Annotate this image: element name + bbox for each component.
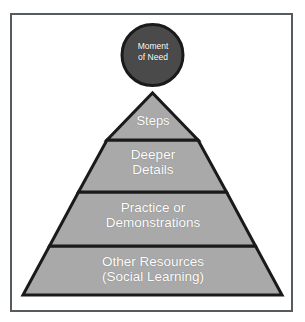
pyramid-figure xyxy=(0,0,305,322)
pyramid-tier-deeper-details[interactable] xyxy=(79,140,227,192)
moment-of-need-circle[interactable] xyxy=(122,25,183,86)
pyramid-tier-other-resources[interactable] xyxy=(23,246,282,295)
pyramid-tier-steps[interactable] xyxy=(107,93,198,140)
pyramid-tier-practice-demonstrations[interactable] xyxy=(50,192,256,246)
diagram-canvas: Moment of Need Steps Deeper Details Prac… xyxy=(0,0,305,322)
